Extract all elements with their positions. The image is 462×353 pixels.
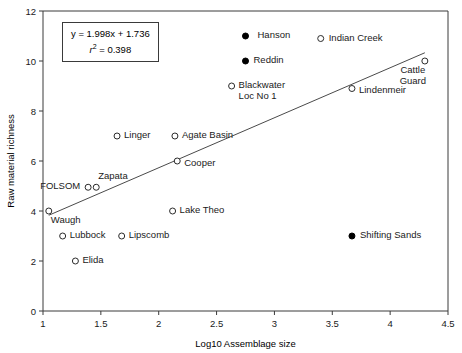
data-point-label: Reddin (254, 55, 284, 66)
data-point-label: Hanson (258, 30, 291, 41)
data-point-marker[interactable] (174, 158, 180, 164)
data-point-label: Cattle Guard (391, 65, 435, 86)
data-point-label: Lindenmeir (359, 85, 406, 96)
data-point-marker[interactable] (72, 258, 78, 264)
x-tick-label: 2 (156, 318, 161, 329)
x-tick-label: 1.5 (94, 318, 107, 329)
r-squared-exponent: 2 (93, 43, 97, 50)
data-point-marker[interactable] (349, 233, 355, 239)
y-tick-label: 0 (31, 306, 36, 317)
data-point-label: Cooper (184, 158, 215, 169)
data-point-label: Lake Theo (180, 205, 225, 216)
regression-equation: y = 1.998x + 1.736 (71, 27, 150, 40)
data-point-marker[interactable] (93, 184, 99, 190)
data-point-marker[interactable] (119, 233, 125, 239)
data-point-marker[interactable] (318, 36, 324, 42)
y-tick-label: 10 (25, 56, 36, 67)
y-tick-label: 12 (25, 6, 36, 17)
data-point-marker[interactable] (170, 208, 176, 214)
r-squared-value: = 0.398 (99, 44, 131, 55)
x-tick-label: 4.5 (441, 318, 454, 329)
data-point-label: Waugh (51, 215, 81, 226)
x-tick-label: 3.5 (326, 318, 339, 329)
x-tick-label: 4 (387, 318, 392, 329)
regression-trendline (49, 53, 425, 216)
data-point-marker[interactable] (349, 86, 355, 92)
data-point-label: Lubbock (70, 230, 106, 241)
x-tick-label: 2.5 (210, 318, 223, 329)
data-point-label: FOLSOM (40, 181, 80, 192)
data-point-marker[interactable] (243, 58, 249, 64)
data-point-marker[interactable] (60, 233, 66, 239)
x-tick-label: 1 (40, 318, 45, 329)
scatter-plot-figure: 02468101211.522.533.544.5Log10 Assemblag… (0, 0, 462, 353)
data-point-label: Indian Creek (329, 33, 383, 44)
y-tick-label: 2 (31, 256, 36, 267)
r-squared-line: r2 = 0.398 (71, 40, 150, 56)
data-point-label: Blackwater Loc No 1 (239, 80, 285, 101)
data-point-marker[interactable] (172, 133, 178, 139)
data-point-marker[interactable] (229, 83, 235, 89)
data-point-label: Linger (124, 130, 150, 141)
data-point-marker[interactable] (114, 133, 120, 139)
data-point-label: Agate Basin (182, 130, 233, 141)
data-point-marker[interactable] (85, 184, 91, 190)
x-axis-title: Log10 Assemblage size (195, 338, 295, 349)
regression-equation-box: y = 1.998x + 1.736 r2 = 0.398 (62, 22, 159, 62)
data-point-label: Lipscomb (129, 230, 170, 241)
x-tick-label: 3 (272, 318, 277, 329)
y-axis-title: Raw material richness (5, 114, 16, 208)
data-point-label: Elida (82, 255, 103, 266)
data-point-marker[interactable] (243, 33, 249, 39)
data-point-label: Shifting Sands (360, 230, 421, 241)
y-tick-label: 8 (31, 106, 36, 117)
y-tick-label: 4 (31, 206, 36, 217)
data-point-label: Zapata (98, 171, 128, 182)
y-tick-label: 6 (31, 156, 36, 167)
